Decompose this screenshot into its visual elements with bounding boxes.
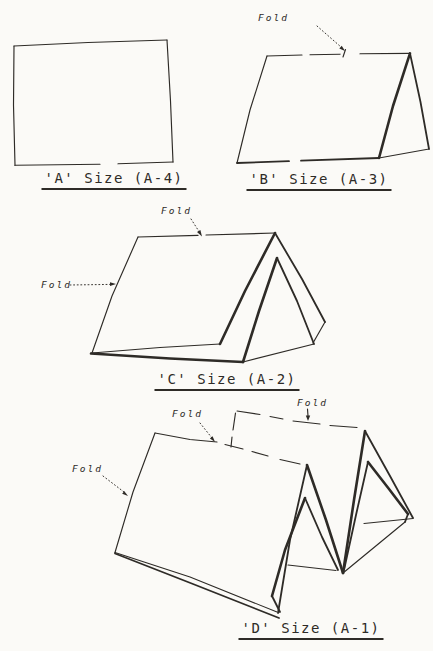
c-size-folded-sheet — [70, 219, 325, 362]
b-size-folded-sheet — [237, 26, 429, 163]
fold-label: Fold — [258, 12, 289, 23]
inner-flap-bottom — [243, 344, 314, 362]
sheet-left-edge — [14, 46, 16, 165]
front-right-fold-edge — [379, 53, 410, 158]
caption-d-size: 'D' Size (A-1) — [238, 620, 383, 640]
fold-label: Fold — [161, 205, 192, 216]
fold-arrowhead-left — [110, 282, 116, 286]
fold-label: Fold — [172, 408, 203, 419]
under-layer-bottom-edge — [115, 554, 279, 619]
fold-label: Fold — [297, 397, 328, 408]
fold-leader-line-top — [191, 219, 200, 233]
caption-b-size: 'B' Size (A-3) — [246, 171, 391, 191]
fold-arrowhead — [339, 46, 345, 51]
sheet-top-edge — [14, 40, 167, 46]
back-flap-edge — [410, 53, 429, 149]
fold-leader-line — [317, 26, 341, 47]
inner-fold-right-edge — [277, 258, 314, 344]
valley-up-edge-inner — [344, 462, 368, 570]
sheet-right-edge — [167, 40, 173, 162]
front-right-edge-outer — [278, 465, 307, 613]
sheet-bottom-edge — [15, 162, 173, 165]
drawing-sheet-folding-diagram: Fold Fold Fold Fold Fold Fold 'A' Size (… — [0, 0, 433, 651]
front-bottom-edge — [92, 344, 220, 353]
a-size-sheet — [14, 40, 174, 165]
tail-hook — [405, 514, 408, 522]
second-peak-down-edge-inner — [368, 462, 408, 514]
caption-a-size: 'A' Size (A-4) — [41, 170, 186, 190]
back-sheet-top-edge-dashed — [237, 411, 357, 428]
fold-label: Fold — [72, 463, 103, 474]
front-bottom-edge — [115, 553, 277, 613]
fold-arrowhead-top-right — [306, 416, 310, 422]
fold-top-edge — [138, 233, 275, 237]
back-sheet-left-edge-dashed — [231, 413, 236, 447]
under-layer-bottom-edge — [91, 354, 243, 363]
fold-top-edge — [267, 53, 410, 56]
caption-c-size: 'C' Size (A-2) — [154, 371, 299, 391]
valley-bottom-edge — [288, 565, 336, 571]
first-peak-down-edge — [307, 465, 343, 573]
d-size-folded-sheet — [103, 409, 413, 618]
fold-leader-line-left — [103, 476, 124, 492]
front-left-edge — [115, 433, 155, 553]
fold-leader-line-top-right — [308, 409, 309, 416]
front-bottom-edge — [237, 158, 379, 163]
front-left-edge — [92, 237, 138, 353]
fold-leader-line-top-left — [200, 423, 212, 438]
fold-label: Fold — [41, 279, 72, 290]
inner-fold-left-edge — [243, 258, 277, 362]
valley-up-edge — [343, 431, 365, 573]
front-top-edge-dashed — [225, 445, 300, 465]
second-peak-down-edge — [365, 431, 413, 518]
line-art — [0, 0, 433, 651]
front-top-edge — [155, 433, 217, 442]
back-flap-bottom — [379, 149, 429, 158]
fold-leader-line-left — [70, 284, 111, 285]
back-flap-tip — [313, 322, 325, 343]
front-left-edge — [237, 56, 267, 163]
